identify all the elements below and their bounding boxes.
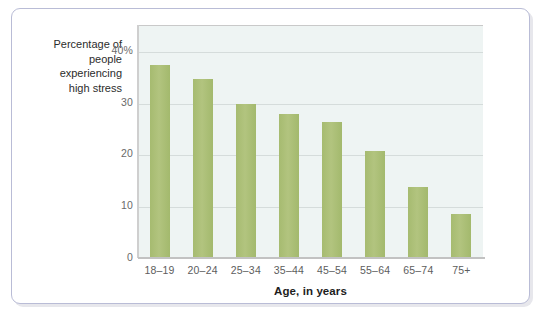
bar-65–74 <box>408 187 428 258</box>
x-axis-line <box>138 257 485 259</box>
bar-75+ <box>451 214 471 258</box>
y-tick-label-30: 30 <box>121 97 133 108</box>
chart-figure: Percentage of people experiencing high s… <box>0 0 545 317</box>
x-axis-title: Age, in years <box>138 285 483 297</box>
gridline-10 <box>138 207 483 208</box>
x-tick-label-18–19: 18–19 <box>138 264 181 276</box>
bar-20–24 <box>193 79 213 258</box>
y-axis-line <box>137 25 139 258</box>
gridline-20 <box>138 155 483 156</box>
y-tick-label-40%: 40% <box>111 45 133 56</box>
bar-55–64 <box>365 151 385 258</box>
gridline-30 <box>138 104 483 105</box>
bar-35–44 <box>279 114 299 258</box>
y-tick-label-10: 10 <box>121 200 133 211</box>
x-tick-label-25–34: 25–34 <box>224 264 267 276</box>
x-tick-label-55–64: 55–64 <box>354 264 397 276</box>
y-tick-label-20: 20 <box>121 148 133 159</box>
x-tick-label-65–74: 65–74 <box>397 264 440 276</box>
bar-18–19 <box>150 65 170 258</box>
plot-area <box>138 25 483 258</box>
x-tick-label-75+: 75+ <box>440 264 483 276</box>
y-axis-tick-labels: 010203040% <box>95 0 133 317</box>
gridline-40 <box>138 52 483 53</box>
bar-25–34 <box>236 104 256 258</box>
x-tick-label-35–44: 35–44 <box>267 264 310 276</box>
x-tick-label-45–54: 45–54 <box>311 264 354 276</box>
x-tick-label-20–24: 20–24 <box>181 264 224 276</box>
y-tick-label-0: 0 <box>127 252 133 263</box>
bar-45–54 <box>322 122 342 258</box>
